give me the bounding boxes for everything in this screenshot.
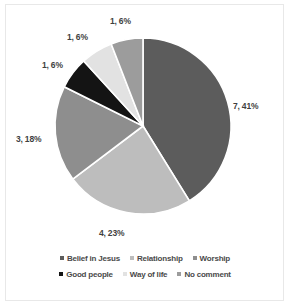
legend-item-belief-in-jesus[interactable]: Belief in Jesus — [60, 254, 120, 263]
chart-legend: Belief in Jesus Relationship Worship Goo… — [34, 250, 256, 282]
pie-data-label: 4, 23% — [99, 228, 124, 238]
pie-data-label: 1, 6% — [42, 60, 63, 70]
legend-row-2: Good people Way of life No comment — [34, 266, 256, 282]
pie-data-label: 7, 41% — [233, 101, 258, 111]
legend-swatch-icon — [130, 256, 134, 260]
pie-data-label: 1, 6% — [67, 32, 88, 42]
legend-row-1: Belief in Jesus Relationship Worship — [34, 250, 256, 266]
legend-label: Belief in Jesus — [67, 254, 120, 263]
pie-slices-group — [55, 38, 231, 214]
legend-item-good-people[interactable]: Good people — [59, 270, 113, 279]
legend-item-way-of-life[interactable]: Way of life — [123, 270, 168, 279]
legend-item-worship[interactable]: Worship — [193, 254, 230, 263]
legend-item-relationship[interactable]: Relationship — [130, 254, 183, 263]
legend-label: Good people — [66, 270, 113, 279]
legend-label: Worship — [200, 254, 230, 263]
legend-swatch-icon — [123, 272, 127, 276]
pie-data-label: 3, 18% — [16, 134, 41, 144]
pie-data-label: 1, 6% — [110, 16, 131, 26]
legend-label: No comment — [184, 270, 230, 279]
legend-item-no-comment[interactable]: No comment — [177, 270, 230, 279]
legend-swatch-icon — [59, 272, 63, 276]
legend-swatch-icon — [193, 256, 197, 260]
legend-label: Relationship — [137, 254, 183, 263]
legend-swatch-icon — [60, 256, 64, 260]
legend-label: Way of life — [130, 270, 168, 279]
legend-swatch-icon — [177, 272, 181, 276]
pie-chart-screenshot: 7, 41%4, 23%3, 18%1, 6%1, 6%1, 6% Belief… — [0, 0, 290, 307]
